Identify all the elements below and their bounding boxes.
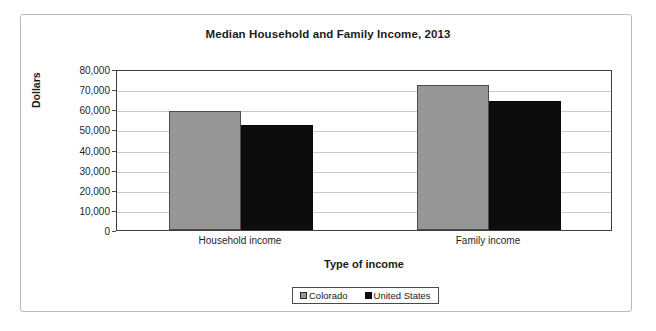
bar-colorado-family-income bbox=[417, 85, 489, 230]
chart-legend: ColoradoUnited States bbox=[292, 287, 439, 304]
x-axis-category-label: Family income bbox=[388, 235, 588, 246]
y-axis-tick-label: 50,000 bbox=[52, 125, 110, 136]
y-axis-tick-label: 30,000 bbox=[52, 165, 110, 176]
legend-label: Colorado bbox=[309, 290, 348, 301]
legend-item-colorado: Colorado bbox=[300, 290, 348, 301]
chart-title: Median Household and Family Income, 2013 bbox=[0, 28, 656, 40]
bar-united-states-family-income bbox=[489, 101, 561, 230]
y-axis-tick-mark bbox=[112, 110, 116, 111]
chart-figure: Median Household and Family Income, 2013… bbox=[0, 0, 656, 331]
y-axis-tick-label: 40,000 bbox=[52, 145, 110, 156]
y-axis-tick-label: 20,000 bbox=[52, 185, 110, 196]
y-axis-tick-label: 10,000 bbox=[52, 205, 110, 216]
y-axis-tick-mark bbox=[112, 171, 116, 172]
legend-swatch-icon bbox=[300, 292, 307, 299]
legend-label: United States bbox=[374, 290, 431, 301]
y-axis-tick-mark bbox=[112, 130, 116, 131]
y-axis-tick-mark bbox=[112, 231, 116, 232]
y-axis-tick-label: 0 bbox=[52, 226, 110, 237]
legend-item-united-states: United States bbox=[365, 290, 431, 301]
bar-colorado-household-income bbox=[169, 111, 241, 230]
legend-swatch-icon bbox=[365, 292, 372, 299]
bar-united-states-household-income bbox=[241, 125, 313, 230]
y-axis-title: Dollars bbox=[30, 94, 42, 108]
gridline bbox=[117, 91, 611, 92]
y-axis-tick-labels: 80,00070,00060,00050,00040,00030,00020,0… bbox=[48, 70, 110, 231]
y-axis-tick-mark bbox=[112, 211, 116, 212]
y-axis-tick-mark bbox=[112, 191, 116, 192]
y-axis-tick-mark bbox=[112, 70, 116, 71]
plot-area bbox=[116, 70, 612, 231]
y-axis-tick-mark bbox=[112, 90, 116, 91]
y-axis-tick-label: 70,000 bbox=[52, 85, 110, 96]
y-axis-tick-label: 80,000 bbox=[52, 65, 110, 76]
y-axis-tick-mark bbox=[112, 151, 116, 152]
x-axis-title: Type of income bbox=[116, 258, 612, 270]
y-axis-tick-label: 60,000 bbox=[52, 105, 110, 116]
x-axis-category-label: Household income bbox=[140, 235, 340, 246]
